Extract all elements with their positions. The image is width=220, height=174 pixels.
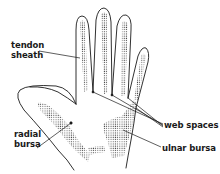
label-tendon-sheath-line1: tendon [11, 40, 44, 50]
label-web-spaces-text: web spaces [164, 120, 218, 130]
label-tendon-sheath-line2: sheath [11, 50, 44, 60]
label-web-spaces: web spaces [164, 120, 218, 130]
label-tendon-sheath: tendon sheath [11, 40, 44, 60]
radial-bursa [38, 103, 90, 162]
label-radial-bursa: radial bursa [14, 129, 41, 149]
label-radial-bursa-line2: bursa [14, 139, 41, 149]
label-ulnar-bursa: ulnar bursa [162, 143, 216, 153]
bursa-connection [88, 146, 105, 155]
label-radial-bursa-line1: radial [14, 129, 41, 139]
ulnar-bursa [103, 100, 137, 158]
label-ulnar-bursa-text: ulnar bursa [162, 143, 216, 153]
